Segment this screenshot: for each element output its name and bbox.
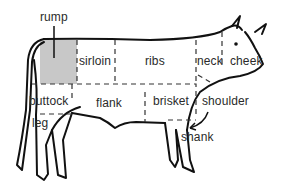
rump-highlight <box>40 40 77 84</box>
cow-eye <box>234 42 238 46</box>
label-flank: flank <box>96 97 122 109</box>
label-neck: neck <box>197 55 223 67</box>
label-leg: leg <box>32 117 48 129</box>
label-shank: shank <box>181 131 214 143</box>
label-brisket: brisket <box>153 95 189 107</box>
label-sirloin: sirloin <box>79 55 111 67</box>
label-ribs: ribs <box>145 55 165 67</box>
label-buttock: buttock <box>29 95 68 107</box>
label-rump: rump <box>40 11 68 23</box>
label-shoulder: shoulder <box>202 95 249 107</box>
beef-cuts-diagram: rump sirloin ribs neck cheek buttock fla… <box>0 0 281 190</box>
label-cheek: cheek <box>230 55 263 67</box>
